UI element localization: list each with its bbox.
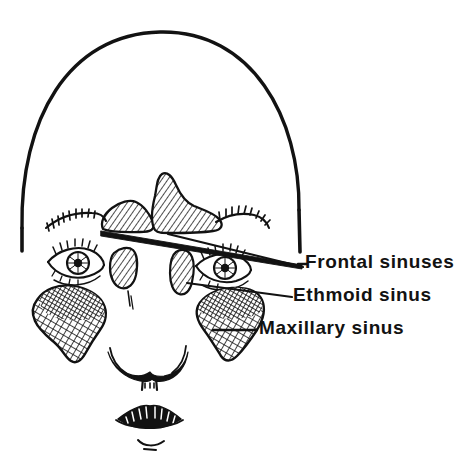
- figure-page: the sinuses: [0, 0, 474, 464]
- eyebrow-right: [216, 206, 270, 228]
- label-frontal-sinuses: Frontal sinuses: [305, 252, 454, 271]
- ethmoid-sinus-left: [110, 248, 137, 309]
- mouth: [116, 406, 183, 429]
- frontal-sinus-right: [152, 173, 222, 233]
- label-ethmoid-sinus: Ethmoid sinus: [293, 285, 432, 304]
- label-maxillary-sinus: Maxillary sinus: [259, 318, 404, 337]
- eye-left: [48, 239, 104, 285]
- ethmoid-sinus-right: [170, 250, 194, 294]
- nostrils: [145, 383, 154, 388]
- maxillary-sinus-left: [33, 286, 106, 363]
- nose: [108, 346, 188, 390]
- chin-crease: [138, 440, 164, 450]
- maxillary-sinus-right: [197, 288, 264, 361]
- frontal-sinus-left: [102, 201, 154, 232]
- sinus-diagram-illustration: [0, 0, 474, 464]
- eyebrow-left: [46, 209, 106, 231]
